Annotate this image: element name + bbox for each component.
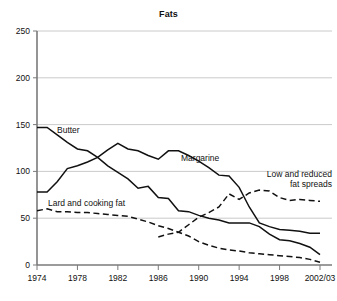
x-tick-label: 1998 [270, 273, 289, 283]
series-label: Low and reduced [267, 169, 332, 179]
data-series-group [37, 127, 320, 262]
x-tick-label: 2002/03 [305, 273, 336, 283]
y-tick-label: 100 [16, 166, 30, 176]
gridlines-group [37, 31, 332, 218]
series-annotations-group: ButterMargarineLard and cooking fatLow a… [48, 125, 332, 208]
x-tick-label: 1990 [189, 273, 208, 283]
y-tick-label: 250 [16, 26, 30, 36]
series-label: Lard and cooking fat [48, 198, 126, 208]
series-label: fat spreads [290, 179, 332, 189]
x-axis-ticks-group: 19741978198219861990199419982002/03 [28, 265, 336, 283]
x-tick-label: 1978 [68, 273, 87, 283]
series-line-low-and-reduced-fat-spreads [158, 190, 320, 237]
chart-plot-area: 050100150200250 197419781982198619901994… [0, 0, 337, 301]
y-tick-label: 50 [21, 213, 31, 223]
series-label: Margarine [181, 153, 220, 163]
series-line-butter [37, 127, 320, 254]
fats-line-chart: Fats 050100150200250 1974197819821986199… [0, 0, 337, 301]
series-line-margarine [37, 143, 320, 233]
x-tick-label: 1994 [230, 273, 249, 283]
y-axis-ticks-group: 050100150200250 [16, 26, 37, 270]
x-tick-label: 1986 [149, 273, 168, 283]
x-tick-label: 1974 [28, 273, 47, 283]
y-tick-label: 150 [16, 120, 30, 130]
y-tick-label: 200 [16, 73, 30, 83]
series-line-lard-and-cooking-fat [37, 209, 320, 262]
series-label: Butter [57, 125, 80, 135]
x-tick-label: 1982 [108, 273, 127, 283]
y-tick-label: 0 [25, 260, 30, 270]
